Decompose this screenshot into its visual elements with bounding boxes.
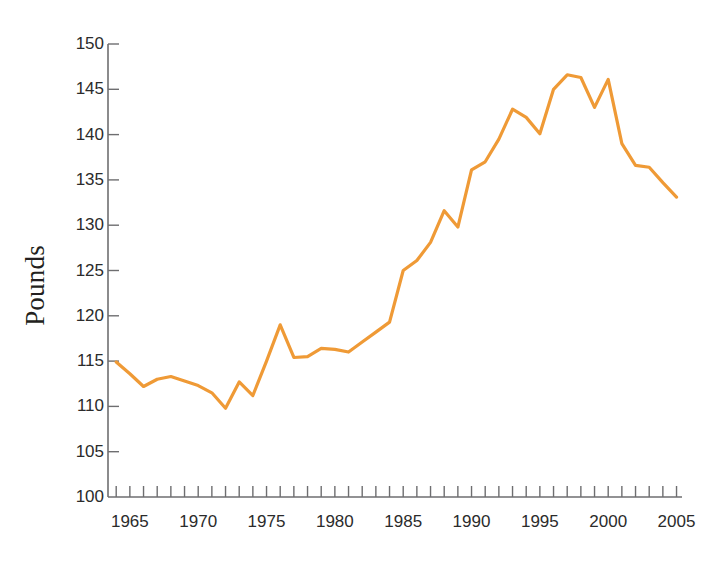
axes (108, 44, 682, 497)
plot-area (0, 0, 726, 571)
chart-container: Pounds 100105110115120125130135140145150… (0, 0, 726, 571)
data-series (116, 75, 676, 408)
series-line-pounds (116, 75, 676, 408)
